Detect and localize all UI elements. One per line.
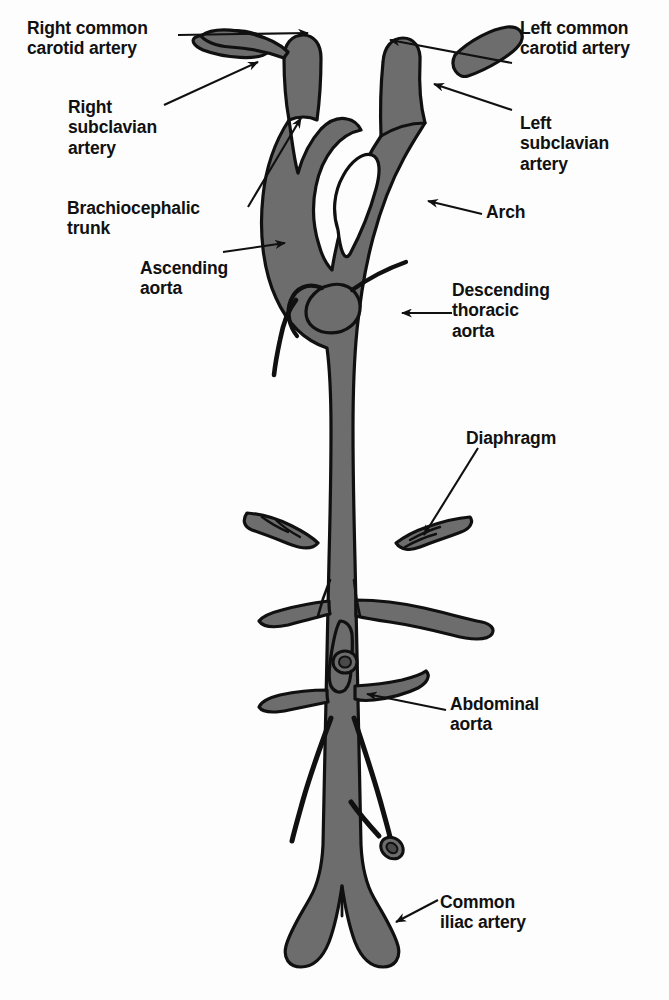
leader-common-iliac: [396, 900, 438, 922]
label-abdominal-aorta: Abdominal aorta: [450, 694, 600, 735]
lumbar-artery-left-shape: [259, 690, 328, 712]
leader-abdominal-aorta: [367, 694, 446, 710]
leader-arch: [428, 201, 482, 214]
label-right-subclavian-artery: Right subclavian artery: [68, 97, 218, 158]
label-ascending-aorta: Ascending aorta: [140, 258, 290, 299]
label-right-common-carotid-artery: Right common carotid artery: [27, 18, 242, 59]
label-common-iliac-artery: Common iliac artery: [440, 892, 600, 933]
label-brachiocephalic-trunk: Brachiocephalic trunk: [67, 198, 242, 239]
label-left-common-carotid-artery: Left common carotid artery: [520, 18, 669, 59]
left-subclavian-artery-shape: [453, 27, 522, 77]
renal-artery-right-shape: [356, 600, 493, 639]
label-diaphragm: Diaphragm: [466, 428, 616, 448]
diagram-canvas: Right common carotid artery Right subcla…: [0, 0, 669, 1000]
label-descending-thoracic-aorta: Descending thoracic aorta: [452, 280, 602, 341]
leader-left-subclavian: [434, 84, 512, 110]
label-arch: Arch: [486, 202, 576, 222]
vessel-shapes: [193, 27, 522, 967]
diaphragm-crus-left: [244, 513, 318, 548]
lumbar-artery-right-shape: [355, 671, 428, 700]
brachiocephalic-trunk-shape: [284, 35, 321, 120]
left-common-carotid-artery-shape: [381, 38, 425, 136]
median-vessel-lumen: [339, 657, 351, 668]
label-left-subclavian-artery: Left subclavian artery: [520, 113, 650, 174]
